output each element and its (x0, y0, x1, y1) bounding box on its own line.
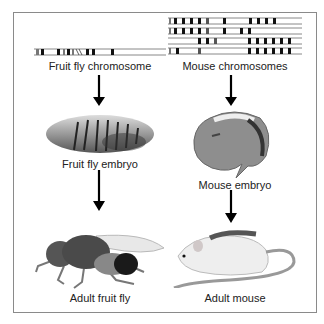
fruit-fly-embryo-image (44, 112, 156, 156)
adult-mouse-image (170, 228, 302, 288)
arrow-down-icon (225, 97, 237, 106)
mouse-embryo-label: Mouse embryo (168, 179, 302, 191)
arrow-down-icon (93, 97, 105, 106)
mouse-embryo-image (190, 108, 274, 180)
adult-fruit-fly-label: Adult fruit fly (34, 292, 166, 304)
arrow-down-icon (93, 201, 105, 211)
adult-fruit-fly-image (34, 226, 166, 290)
fruit-fly-embryo-label: Fruit fly embryo (34, 158, 166, 170)
arrow-down-icon (225, 213, 237, 223)
adult-mouse-label: Adult mouse (168, 292, 302, 304)
